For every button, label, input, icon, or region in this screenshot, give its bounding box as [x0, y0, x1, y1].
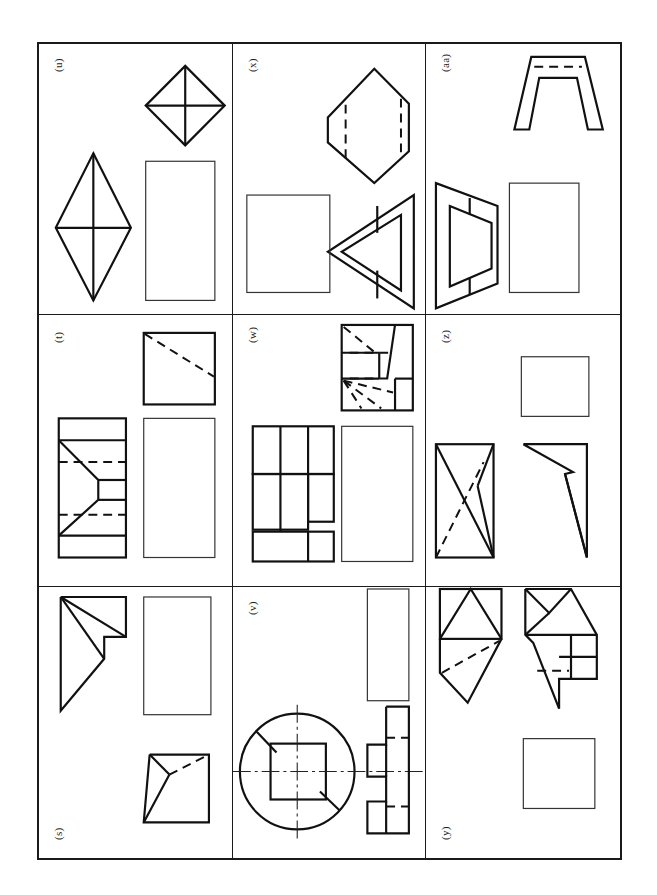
panel-s[interactable]: (s) [39, 587, 233, 858]
blank-view-box [144, 597, 211, 715]
triangular-step-view [61, 597, 126, 711]
panel-v[interactable]: (v) [233, 587, 427, 858]
blank-view-box [341, 427, 412, 562]
panel-u[interactable]: (u) [39, 44, 233, 315]
blank-view-box [144, 419, 215, 558]
blank-view-box [246, 195, 329, 292]
pointed-roof-left-view [440, 589, 502, 703]
blank-view-box [524, 738, 596, 808]
panel-s-drawing [39, 587, 232, 858]
panel-u-drawing [39, 44, 232, 314]
inclined-block-view [341, 325, 412, 410]
square-with-diagonal-view [144, 333, 215, 405]
panel-z[interactable]: (z) [426, 315, 620, 586]
panel-z-drawing [426, 315, 620, 585]
panel-w-drawing [233, 315, 426, 585]
panel-aa-drawing [426, 44, 620, 314]
diamond-with-cross-view [146, 66, 225, 146]
panel-w[interactable]: (w) [233, 315, 427, 586]
panel-aa[interactable]: (aa) [426, 44, 620, 315]
panel-x-drawing [233, 44, 426, 314]
panel-t-drawing [39, 315, 232, 585]
blank-view-box [522, 357, 590, 417]
panel-v-drawing [233, 587, 426, 858]
nested-triangle-view [328, 195, 414, 308]
panel-x[interactable]: (x) [233, 44, 427, 315]
tall-rhombus-view [56, 153, 131, 300]
hexagonal-block-view [328, 69, 409, 183]
tapered-frame-triangle-view [436, 183, 498, 308]
arrow-wedge-view [524, 445, 588, 558]
blank-view-box [367, 589, 408, 701]
circular-flange-view [233, 704, 426, 838]
worksheet-frame: (u) (x) [37, 42, 622, 860]
panel-y-drawing [426, 587, 620, 858]
stepped-dovetail-view [59, 419, 126, 558]
stepped-plan-view [252, 427, 333, 562]
inclined-wedge-view [144, 754, 209, 822]
blank-view-box [510, 183, 580, 292]
panel-y[interactable]: (y) [426, 587, 620, 858]
crossed-wedge-view [436, 445, 494, 558]
arch-bracket-view [515, 57, 603, 130]
pointed-roof-right-view [526, 589, 598, 709]
stepped-side-view [367, 706, 408, 833]
blank-view-box [146, 161, 215, 300]
panel-t[interactable]: (t) [39, 315, 233, 586]
